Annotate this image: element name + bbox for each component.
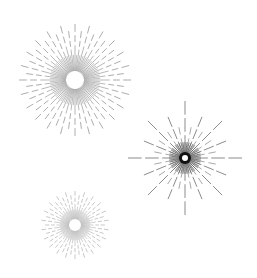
- sunburst-canvas: [0, 0, 257, 278]
- starburst-icon: [128, 101, 242, 215]
- sunburst-small-icon: [41, 191, 108, 259]
- sunburst-large-icon: [19, 24, 131, 136]
